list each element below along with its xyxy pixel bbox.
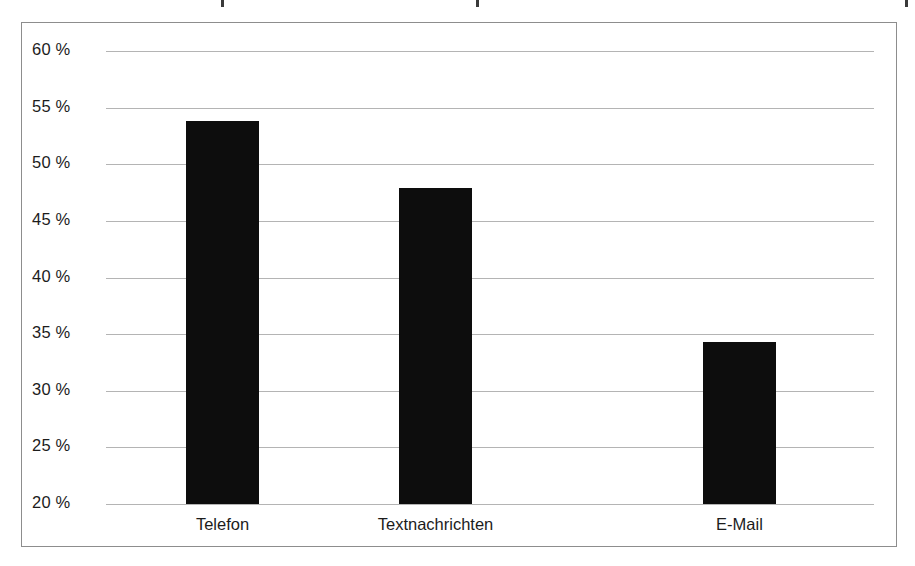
bar-textnachrichten	[399, 188, 472, 504]
gridline	[106, 504, 874, 505]
bleed-mark	[905, 0, 908, 7]
y-axis-tick-label: 60 %	[32, 40, 98, 59]
bar-telefon	[186, 121, 259, 504]
y-axis-tick-label: 55 %	[32, 97, 98, 116]
x-axis-tick-label: E-Mail	[716, 515, 763, 534]
plot-area: 20 %25 %30 %35 %40 %45 %50 %55 %60 %Tele…	[22, 23, 898, 548]
x-axis-tick-label: Textnachrichten	[378, 515, 494, 534]
y-axis-tick-label: 50 %	[32, 153, 98, 172]
y-axis-tick-label: 45 %	[32, 210, 98, 229]
y-axis-tick-label: 30 %	[32, 380, 98, 399]
y-axis-tick-label: 20 %	[32, 493, 98, 512]
bleed-mark	[221, 0, 224, 7]
y-axis-tick-label: 35 %	[32, 323, 98, 342]
x-axis-tick-label: Telefon	[196, 515, 249, 534]
y-axis-tick-label: 40 %	[32, 267, 98, 286]
y-axis-tick-label: 25 %	[32, 436, 98, 455]
bar-e-mail	[703, 342, 776, 504]
cut-off-caption-bleed	[0, 0, 915, 8]
gridline	[106, 51, 874, 52]
bleed-mark	[476, 0, 479, 7]
gridline	[106, 108, 874, 109]
chart-frame: 20 %25 %30 %35 %40 %45 %50 %55 %60 %Tele…	[21, 22, 897, 547]
